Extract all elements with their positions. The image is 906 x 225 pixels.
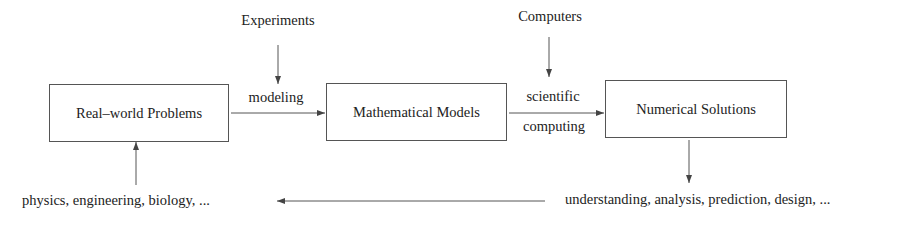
computers-label: Computers <box>518 8 582 25</box>
computing-label: computing <box>523 118 585 135</box>
numerical-solutions-label: Numerical Solutions <box>636 101 756 118</box>
mathematical-models-box: Mathematical Models <box>326 83 507 141</box>
scientific-label: scientific <box>526 88 579 105</box>
real-world-problems-label: Real–world Problems <box>76 105 202 122</box>
outcomes-label: understanding, analysis, prediction, des… <box>565 191 830 208</box>
modeling-label: modeling <box>249 89 304 106</box>
mathematical-models-label: Mathematical Models <box>353 104 480 121</box>
numerical-solutions-box: Numerical Solutions <box>605 80 787 138</box>
real-world-problems-box: Real–world Problems <box>49 84 229 142</box>
applications-label: physics, engineering, biology, ... <box>22 192 210 209</box>
experiments-label: Experiments <box>241 12 314 29</box>
